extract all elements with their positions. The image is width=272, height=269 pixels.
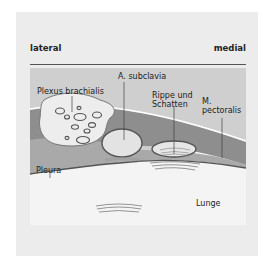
label-lunge: Lunge	[196, 199, 220, 208]
subclavian-artery	[102, 129, 142, 157]
label-pleura: Pleura	[36, 166, 61, 175]
label-muscle-line1: M.	[202, 97, 211, 106]
artery-shadow	[105, 159, 140, 161]
label-rippe-line2: Schatten	[152, 100, 188, 109]
label-muscle-line2: pectoralis	[202, 106, 241, 115]
label-rippe-line1: Rippe und	[152, 91, 193, 100]
label-plexus-brachialis: Plexus brachialis	[37, 87, 104, 96]
label-a-subclavia: A. subclavia	[118, 72, 166, 81]
ultrasound-diagram	[0, 0, 272, 269]
